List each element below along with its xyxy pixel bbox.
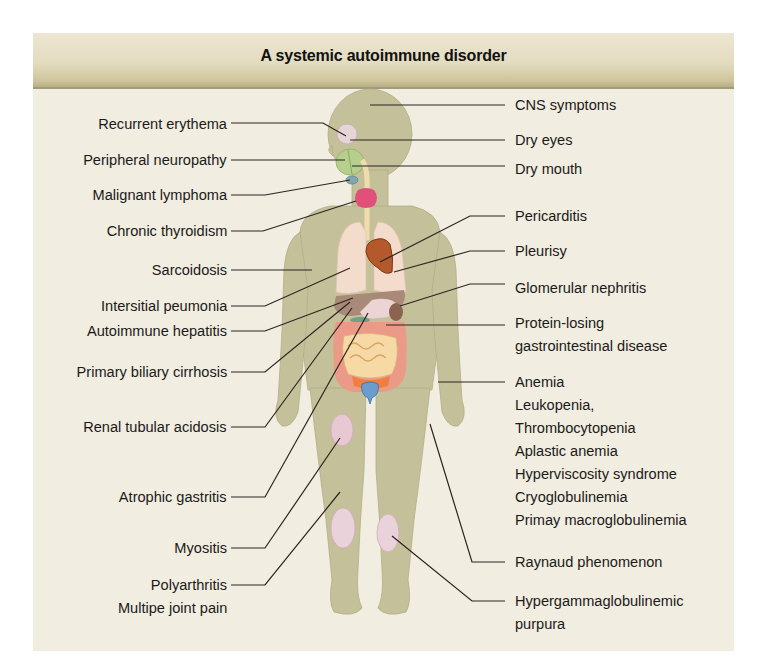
label-chronic-thyroidism: Chronic thyroidism: [106, 222, 227, 240]
label-atrophic-gastritis: Atrophic gastritis: [119, 488, 227, 506]
label-cns-symptoms: CNS symptoms: [515, 96, 616, 114]
label-leukopenia: Leukopenia,: [515, 396, 594, 414]
label-pleurisy: Pleurisy: [515, 242, 567, 260]
label-malignant-lymphoma: Malignant lymphoma: [93, 186, 227, 204]
left-labels: Recurrent erythema Peripheral neuropathy…: [0, 0, 227, 668]
label-protein-losing: Protein-losing: [515, 314, 604, 332]
label-pericarditis: Pericarditis: [515, 207, 587, 225]
label-autoimmune-hepatitis: Autoimmune hepatitis: [87, 322, 227, 340]
left-knee-patch: [331, 508, 355, 548]
label-dry-mouth: Dry mouth: [515, 160, 582, 178]
label-thrombocytopenia: Thrombocytopenia: [515, 419, 636, 437]
label-primary-biliary-cirrhosis: Primary biliary cirrhosis: [76, 363, 227, 381]
label-multiple-joint-pain: Multipe joint pain: [118, 599, 227, 617]
label-cryoglobulinemia: Cryoglobulinemia: [515, 488, 628, 506]
label-gastrointestinal-disease: gastrointestinal disease: [515, 337, 667, 355]
label-primary-macroglobulinemia: Primay macroglobulinemia: [515, 511, 687, 529]
small-intestine-organ: [343, 333, 398, 378]
label-aplastic-anemia: Aplastic anemia: [515, 442, 618, 460]
label-recurrent-erythema: Recurrent erythema: [98, 115, 227, 133]
label-glomerular-nephritis: Glomerular nephritis: [515, 279, 646, 297]
label-renal-tubular-acidosis: Renal tubular acidosis: [84, 418, 227, 436]
label-sarcoidosis: Sarcoidosis: [152, 261, 227, 279]
thigh-patch: [331, 414, 353, 446]
label-anemia: Anemia: [515, 373, 564, 391]
eye-organ: [337, 124, 357, 144]
label-polyarthritis: Polyarthritis: [151, 576, 227, 594]
label-raynaud-phenomenon: Raynaud phenomenon: [515, 553, 662, 571]
right-knee-patch: [377, 514, 399, 552]
label-purpura: purpura: [515, 615, 565, 633]
label-dry-eyes: Dry eyes: [515, 131, 572, 149]
thyroid-organ: [355, 188, 377, 208]
label-interstitial-pneumonia: Intersitial peumonia: [101, 297, 227, 315]
label-hyperviscosity-syndrome: Hyperviscosity syndrome: [515, 465, 677, 483]
label-peripheral-neuropathy: Peripheral neuropathy: [84, 151, 227, 169]
label-myositis: Myositis: [174, 539, 227, 557]
label-hypergammaglobulinemic: Hypergammaglobulinemic: [515, 592, 683, 610]
